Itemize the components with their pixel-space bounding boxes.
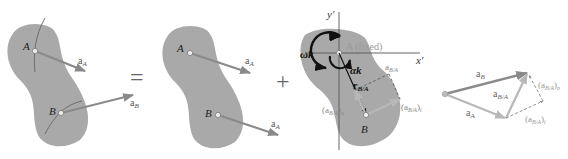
point-B bbox=[215, 112, 220, 117]
svg-text:(aB/A)n: (aB/A)n bbox=[538, 80, 560, 91]
svg-text:aB/A: aB/A bbox=[493, 88, 509, 101]
equals-sign: = bbox=[130, 64, 144, 90]
svg-text:aB: aB bbox=[130, 97, 139, 110]
svg-text:y′: y′ bbox=[326, 8, 335, 20]
svg-text:B: B bbox=[361, 123, 368, 135]
svg-text:aB: aB bbox=[476, 68, 485, 81]
panel-vector-triangle: aB aA aB/A (aB/A)n (aB/A)t bbox=[442, 68, 560, 125]
svg-text:aA: aA bbox=[78, 55, 87, 68]
point-A bbox=[187, 50, 192, 55]
svg-text:A (fixed): A (fixed) bbox=[346, 41, 382, 53]
vector-aB bbox=[445, 73, 527, 94]
panel-rotation-about-A: y′ x′ ωk αk A (fixed) rB/A B aB/A (aB/A)… bbox=[300, 8, 424, 150]
svg-text:aA: aA bbox=[466, 107, 475, 120]
svg-text:A: A bbox=[176, 42, 184, 54]
relative-acceleration-diagram: A B aA aB = A B aA aA + y′ x′ ωk αk A (f… bbox=[0, 0, 568, 159]
plus-sign: + bbox=[276, 68, 290, 94]
point-B bbox=[363, 112, 368, 117]
rigid-body bbox=[162, 26, 243, 148]
svg-text:(aB/A)t: (aB/A)t bbox=[401, 102, 422, 113]
svg-text:aB/A: aB/A bbox=[385, 62, 398, 73]
panel-total-motion: A B aA aB bbox=[7, 18, 139, 146]
vector-aBA bbox=[506, 74, 527, 118]
point-B bbox=[58, 110, 63, 115]
svg-text:A: A bbox=[22, 40, 30, 52]
svg-text:B: B bbox=[49, 105, 56, 117]
point-A bbox=[32, 48, 37, 53]
panel-translation: A B aA aA bbox=[162, 26, 280, 148]
svg-text:aA: aA bbox=[271, 118, 280, 131]
svg-text:aA: aA bbox=[245, 55, 254, 68]
svg-text:x′: x′ bbox=[415, 54, 424, 66]
svg-text:(aB/A)t: (aB/A)t bbox=[525, 114, 546, 125]
svg-text:αk: αk bbox=[350, 64, 362, 76]
svg-text:ωk: ωk bbox=[300, 48, 314, 60]
svg-text:B: B bbox=[205, 107, 212, 119]
rigid-body bbox=[7, 24, 88, 146]
